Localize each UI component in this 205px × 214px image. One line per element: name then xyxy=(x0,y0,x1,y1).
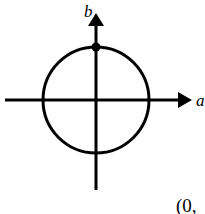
a-axis-arrowhead-icon xyxy=(178,92,192,108)
coordinate-caption: (0, xyxy=(176,196,197,214)
diagram-canvas xyxy=(0,0,205,214)
marked-point xyxy=(92,43,101,52)
a-axis-label: a xyxy=(196,92,205,109)
b-axis-label: b xyxy=(84,3,93,20)
